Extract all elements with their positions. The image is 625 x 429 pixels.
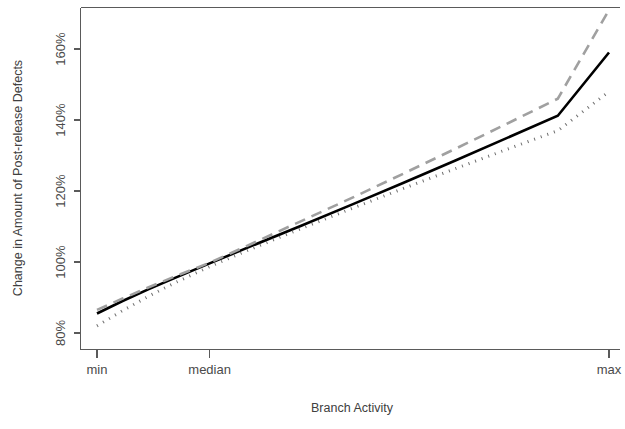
plot-panel-border bbox=[81, 8, 621, 350]
y-tick-label: 120% bbox=[53, 174, 68, 208]
line-chart: Change in Amount of Post-release Defects… bbox=[0, 0, 625, 429]
x-tick-label: min bbox=[87, 362, 108, 377]
x-tick-label: median bbox=[188, 362, 231, 377]
x-axis-ticks: minmedianmax bbox=[87, 350, 622, 377]
chart-container: Change in Amount of Post-release Defects… bbox=[0, 0, 625, 429]
series-group bbox=[97, 10, 609, 326]
y-tick-label: 80% bbox=[53, 320, 68, 346]
x-tick-label: max bbox=[597, 362, 622, 377]
x-axis-title: Branch Activity bbox=[311, 401, 394, 415]
series-solid bbox=[97, 53, 609, 314]
y-axis-title: Change in Amount of Post-release Defects bbox=[11, 60, 25, 296]
y-tick-label: 160% bbox=[53, 32, 68, 66]
y-tick-label: 100% bbox=[53, 245, 68, 279]
series-dashed bbox=[97, 10, 609, 310]
y-axis-ticks: 80%100%120%140%160% bbox=[53, 32, 81, 346]
y-tick-label: 140% bbox=[53, 103, 68, 137]
